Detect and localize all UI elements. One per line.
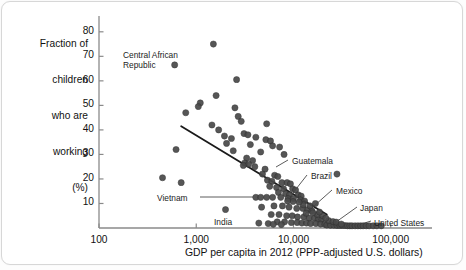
leader-line <box>336 207 357 222</box>
annotation-japan: Japan <box>360 203 383 213</box>
data-point <box>228 135 234 141</box>
data-points-group <box>159 41 384 229</box>
data-point <box>279 203 285 209</box>
data-point <box>209 122 215 128</box>
data-point <box>271 203 277 209</box>
x-tick-label-10000: 10,000 <box>263 234 323 245</box>
data-point <box>338 221 344 227</box>
data-point <box>258 149 264 155</box>
data-point <box>232 105 238 111</box>
data-point <box>247 142 253 148</box>
data-point <box>256 220 262 226</box>
annotation-central-african-republic: Central African Republic <box>123 50 178 71</box>
annotation-brazil: Brazil <box>311 171 332 181</box>
data-point <box>276 211 282 217</box>
x-tick-label-100: 100 <box>69 234 129 245</box>
data-point <box>323 215 329 221</box>
figure-container: Fraction of children who are working (%)… <box>0 0 466 270</box>
data-point <box>285 198 291 204</box>
data-point <box>195 104 201 110</box>
data-point <box>294 205 300 211</box>
y-tick-label-30: 30 <box>72 147 94 158</box>
data-point <box>264 194 270 200</box>
x-tick-label-1000: 1,000 <box>166 234 226 245</box>
data-point <box>270 194 276 200</box>
data-point <box>286 204 292 210</box>
x-tick-label-100000: 100,000 <box>361 234 421 245</box>
data-point <box>296 199 302 205</box>
data-point <box>222 207 228 213</box>
y-tick-label-80: 80 <box>72 25 94 36</box>
data-point <box>258 194 264 200</box>
y-tick-label-40: 40 <box>72 123 94 134</box>
data-point <box>238 118 244 124</box>
data-point <box>233 77 239 83</box>
data-point <box>278 194 284 200</box>
leader-line <box>276 160 288 167</box>
data-point <box>277 144 283 150</box>
data-point <box>294 214 300 220</box>
data-point <box>267 183 273 189</box>
data-point <box>183 110 189 116</box>
data-point <box>278 221 284 227</box>
data-point <box>264 121 270 127</box>
annotation-mexico: Mexico <box>336 186 363 196</box>
data-point <box>312 200 318 206</box>
annotation-india: India <box>214 217 232 227</box>
y-tick-label-10: 10 <box>72 196 94 207</box>
data-point <box>270 221 276 227</box>
y-tick-label-70: 70 <box>72 49 94 60</box>
data-point <box>268 211 274 217</box>
data-point <box>159 175 165 181</box>
data-point <box>316 209 322 215</box>
data-point <box>281 151 287 157</box>
data-point <box>178 180 184 186</box>
data-point <box>284 213 290 219</box>
data-point <box>245 132 251 138</box>
y-tick-label-20: 20 <box>72 172 94 183</box>
data-point <box>252 164 258 170</box>
data-point <box>288 220 294 226</box>
data-point <box>210 41 216 47</box>
data-point <box>221 133 227 139</box>
data-point <box>230 148 236 154</box>
data-point <box>258 204 264 210</box>
data-point <box>303 210 309 216</box>
data-point <box>275 173 281 179</box>
data-point <box>253 134 259 140</box>
data-point <box>334 171 340 177</box>
annotation-united-states: United States <box>374 218 424 228</box>
y-tick-label-50: 50 <box>72 98 94 109</box>
data-point <box>310 210 316 216</box>
annotation-vietnam: Vietnam <box>157 193 188 203</box>
x-axis-title: GDP per capita in 2012 (PPP-adjusted U.S… <box>185 247 423 259</box>
data-point <box>216 127 222 133</box>
data-point <box>223 140 229 146</box>
annotation-guatemala: Guatemala <box>292 156 333 166</box>
scatter-plot-svg <box>0 0 466 270</box>
data-point <box>240 162 246 168</box>
data-point <box>259 171 265 177</box>
data-point <box>173 146 179 152</box>
data-point <box>270 143 276 149</box>
data-point <box>213 92 219 98</box>
y-tick-label-60: 60 <box>72 74 94 85</box>
